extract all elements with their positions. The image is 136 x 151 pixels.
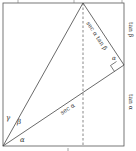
- tan-alpha-label: tan α: [128, 94, 135, 110]
- sec-alpha-line: [3, 65, 124, 146]
- tan-beta-label: tan β: [127, 22, 135, 38]
- beta-label: β: [16, 118, 21, 126]
- sec-alpha-label: sec α: [59, 101, 76, 116]
- trig-diagram: γ β α α sec α sec α tan β tan β tan α: [0, 0, 136, 151]
- right-angle-marker: [111, 62, 117, 72]
- alpha-origin-label: α: [20, 136, 25, 144]
- alpha-corner-label: α: [112, 54, 116, 61]
- bounding-rectangle: [3, 3, 124, 146]
- hypotenuse-line: [3, 3, 83, 146]
- sec-alpha-tan-beta-line: [83, 3, 124, 65]
- gamma-label: γ: [6, 114, 11, 122]
